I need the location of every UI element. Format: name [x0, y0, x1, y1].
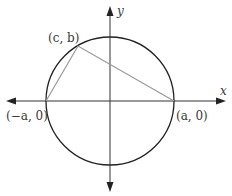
arrow-right-icon [216, 98, 226, 105]
y-axis [107, 6, 114, 192]
diagram-canvas: y x (c, b) (−a, 0) (a, 0) [0, 0, 232, 196]
x-axis [6, 98, 226, 105]
arrow-down-icon [107, 182, 114, 192]
arrow-left-icon [6, 98, 16, 105]
y-axis-label: y [116, 4, 124, 18]
point-label-c-b: (c, b) [48, 31, 79, 45]
x-axis-label: x [220, 84, 227, 98]
point-label-a-0: (a, 0) [176, 109, 208, 123]
point-label-neg-a-0: (−a, 0) [6, 109, 48, 123]
arrow-up-icon [107, 6, 114, 16]
